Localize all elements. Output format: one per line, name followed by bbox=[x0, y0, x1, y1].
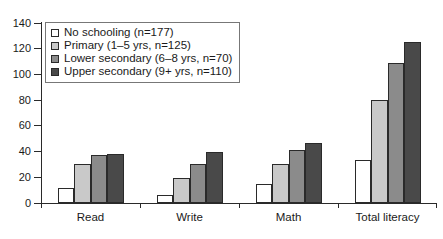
legend-swatch-icon bbox=[51, 68, 59, 76]
bar bbox=[305, 143, 322, 203]
x-axis-category-label: Read bbox=[77, 212, 105, 224]
bar bbox=[107, 154, 124, 204]
bar bbox=[371, 100, 388, 204]
legend-label: Lower secondary (6–8 yrs, n=70) bbox=[64, 53, 232, 65]
x-axis-category-label: Total literacy bbox=[356, 212, 420, 224]
legend-label: No schooling (n=177) bbox=[64, 27, 174, 39]
y-tick-label: 60 bbox=[1, 120, 31, 131]
legend-item: Primary (1–5 yrs, n=125) bbox=[51, 39, 232, 52]
bar-chart: 0 20 40 60 80 100 120 140 bbox=[0, 0, 443, 239]
bar bbox=[355, 160, 372, 203]
legend-swatch-icon bbox=[51, 29, 59, 37]
legend-item: Upper secondary (9+ yrs, n=110) bbox=[51, 65, 232, 78]
bar bbox=[190, 164, 207, 203]
legend-item: No schooling (n=177) bbox=[51, 26, 232, 39]
legend-swatch-icon bbox=[51, 42, 59, 50]
legend-swatch-icon bbox=[51, 55, 59, 63]
bar bbox=[404, 42, 421, 203]
bar bbox=[173, 178, 190, 203]
y-tick-label: 80 bbox=[1, 95, 31, 106]
x-axis-category-label: Write bbox=[176, 212, 203, 224]
chart-legend: No schooling (n=177)Primary (1–5 yrs, n=… bbox=[45, 22, 240, 83]
bar bbox=[206, 152, 223, 203]
legend-label: Upper secondary (9+ yrs, n=110) bbox=[64, 66, 232, 78]
legend-item: Lower secondary (6–8 yrs, n=70) bbox=[51, 52, 232, 65]
bar bbox=[272, 164, 289, 203]
y-tick-label: 120 bbox=[1, 43, 31, 54]
bar bbox=[289, 150, 306, 203]
bar bbox=[91, 155, 108, 203]
bar bbox=[256, 184, 273, 203]
y-tick-label: 0 bbox=[1, 198, 31, 209]
y-tick-label: 40 bbox=[1, 146, 31, 157]
bar bbox=[58, 188, 75, 203]
y-tick-label: 100 bbox=[1, 69, 31, 80]
y-tick-label: 140 bbox=[1, 18, 31, 29]
bar bbox=[388, 63, 405, 203]
bar bbox=[157, 195, 174, 203]
y-tick-label: 20 bbox=[1, 172, 31, 183]
y-axis-line bbox=[41, 22, 42, 204]
x-axis-category-label: Math bbox=[276, 212, 302, 224]
bar bbox=[74, 164, 91, 203]
legend-label: Primary (1–5 yrs, n=125) bbox=[64, 40, 191, 52]
